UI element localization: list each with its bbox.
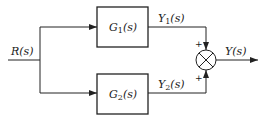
block-diagram: R(s) G1(s) G2(s) Y1(s) Y2(s) + + Y(s)	[0, 0, 270, 124]
output-label: Y(s)	[225, 45, 247, 58]
block-g1: G1(s)	[97, 7, 148, 47]
plus-sign-top: +	[195, 39, 203, 49]
block-g2-label: G2(s)	[109, 88, 137, 102]
input-label: R(s)	[10, 45, 34, 58]
block-g1-label: G1(s)	[109, 21, 137, 35]
y2-label: Y2(s)	[158, 78, 185, 92]
plus-sign-bottom: +	[195, 73, 203, 83]
y1-label: Y1(s)	[158, 12, 185, 26]
block-g2: G2(s)	[97, 74, 148, 114]
summing-junction-icon	[196, 50, 216, 70]
